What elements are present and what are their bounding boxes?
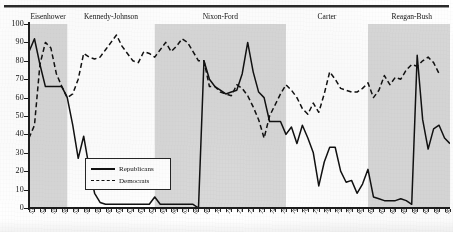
- y-tick-mark: [24, 171, 29, 172]
- x-tick-mark: [34, 209, 35, 212]
- y-tick-mark: [24, 116, 29, 117]
- x-tick-mark: [177, 209, 178, 212]
- x-tick-mark: [352, 209, 353, 212]
- x-tick-mark: [122, 209, 123, 212]
- x-tick-mark: [330, 209, 331, 212]
- x-tick-mark: [144, 209, 145, 212]
- x-tick-mark: [209, 209, 210, 212]
- x-tick-mark: [111, 209, 112, 212]
- legend-entry-democrats: Democrats: [91, 176, 149, 186]
- y-tick-mark: [24, 79, 29, 80]
- x-tick-mark: [395, 209, 396, 212]
- x-tick-mark: [242, 209, 243, 212]
- legend-label-democrats: Democrats: [119, 177, 149, 185]
- y-tick-label: 80: [0, 57, 24, 65]
- x-tick-mark: [297, 209, 298, 212]
- y-tick-label: 10: [0, 186, 24, 194]
- x-tick-mark: [450, 209, 451, 212]
- y-tick-label: 40: [0, 130, 24, 138]
- x-tick-mark: [363, 209, 364, 212]
- admin-band-nixon-ford: [155, 24, 286, 208]
- admin-label-kennedy-johnson: Kennedy-Johnson: [66, 13, 156, 21]
- x-tick-mark: [275, 209, 276, 212]
- x-tick-mark: [341, 209, 342, 212]
- x-tick-mark: [67, 209, 68, 212]
- legend-swatch-solid-line-icon: [91, 165, 115, 173]
- x-tick-mark: [89, 209, 90, 212]
- figure-root: 0102030405060708090100 53545556575859606…: [0, 0, 453, 232]
- x-tick-mark: [406, 209, 407, 212]
- admin-label-nixon-ford: Nixon-Ford: [175, 13, 265, 21]
- x-tick-mark: [56, 209, 57, 212]
- y-tick-mark: [24, 42, 29, 43]
- y-tick-mark: [24, 153, 29, 154]
- legend-swatch-dashed-line-icon: [91, 177, 115, 185]
- x-tick-mark: [78, 209, 79, 212]
- x-tick-mark: [188, 209, 189, 212]
- y-tick-mark: [24, 24, 29, 25]
- x-tick-mark: [253, 209, 254, 212]
- x-tick-mark: [439, 209, 440, 212]
- x-tick-mark: [384, 209, 385, 212]
- scan-edge-shadow: [0, 220, 453, 232]
- legend: Republicans Democrats: [85, 158, 171, 190]
- x-tick-mark: [231, 209, 232, 212]
- x-tick-mark: [428, 209, 429, 212]
- admin-label-reagan-bush: Reagan-Bush: [367, 13, 453, 21]
- header-rule: [4, 5, 449, 7]
- x-tick-mark: [166, 209, 167, 212]
- y-tick-label: 20: [0, 167, 24, 175]
- x-tick-mark: [198, 209, 199, 212]
- x-tick-mark: [155, 209, 156, 212]
- y-tick-label: 70: [0, 75, 24, 83]
- y-tick-mark: [24, 134, 29, 135]
- legend-label-republicans: Republicans: [119, 165, 154, 173]
- y-tick-label: 0: [0, 204, 24, 212]
- y-tick-label: 60: [0, 94, 24, 102]
- x-tick-mark: [286, 209, 287, 212]
- x-tick-mark: [133, 209, 134, 212]
- x-tick-mark: [220, 209, 221, 212]
- x-tick-mark: [308, 209, 309, 212]
- y-tick-mark: [24, 61, 29, 62]
- admin-band-reagan-bush: [368, 24, 450, 208]
- x-tick-mark: [100, 209, 101, 212]
- x-tick-mark: [373, 209, 374, 212]
- x-tick-mark: [264, 209, 265, 212]
- y-tick-label: 30: [0, 149, 24, 157]
- admin-band-eisenhower: [29, 24, 67, 208]
- y-tick-label: 50: [0, 112, 24, 120]
- y-tick-mark: [24, 98, 29, 99]
- y-tick-mark: [24, 190, 29, 191]
- admin-label-carter: Carter: [282, 13, 372, 21]
- legend-entry-republicans: Republicans: [91, 164, 154, 174]
- y-tick-label: 100: [0, 20, 24, 28]
- x-tick-mark: [319, 209, 320, 212]
- x-tick-mark: [45, 209, 46, 212]
- y-tick-label: 90: [0, 38, 24, 46]
- x-tick-mark: [417, 209, 418, 212]
